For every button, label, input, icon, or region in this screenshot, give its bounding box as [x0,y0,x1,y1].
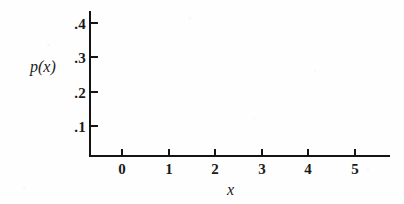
y-axis-tick-label: .4 [46,17,86,32]
y-axis-tick [91,56,98,58]
y-axis-tick [91,125,98,127]
x-axis-tick-label: 5 [343,161,367,177]
y-axis-line [89,11,91,157]
y-axis-tick [91,91,98,93]
x-axis-line [89,155,390,157]
y-axis-tick-label: .1 [46,120,86,135]
x-axis-tick [354,149,356,156]
x-axis-tick-label: 3 [250,161,274,177]
x-axis-tick-label: 1 [157,161,181,177]
x-axis-tick-label: 0 [110,161,134,177]
x-axis-tick [214,149,216,156]
x-axis-tick [307,149,309,156]
y-axis-title: p(x) [30,59,56,75]
x-axis-tick [121,149,123,156]
figure-canvas: .4 .3 .2 .1 0 1 2 3 4 5 p(x) x [0,0,404,204]
y-axis-tick [91,22,98,24]
x-axis-tick-label: 4 [296,161,320,177]
x-axis-title: x [227,182,234,198]
x-axis-tick [168,149,170,156]
x-axis-tick [261,149,263,156]
y-axis-tick-label: .2 [46,86,86,101]
x-axis-tick-label: 2 [203,161,227,177]
